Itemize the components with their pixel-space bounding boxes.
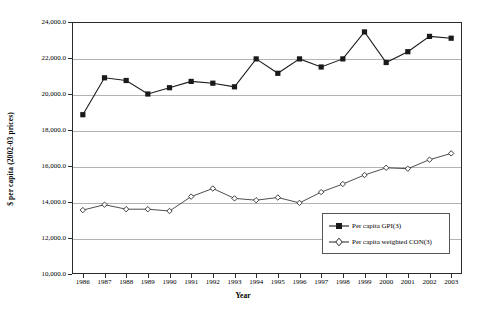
- x-tick-mark: [170, 274, 171, 278]
- x-tick-mark: [300, 274, 301, 278]
- x-tick-mark: [278, 274, 279, 278]
- x-tick-mark: [343, 274, 344, 278]
- x-tick-mark: [83, 274, 84, 278]
- y-tick-mark: [68, 238, 72, 239]
- legend-item-gpi: Per capita GPI(3): [328, 218, 445, 234]
- y-tick-mark: [68, 202, 72, 203]
- legend-label-gpi: Per capita GPI(3): [352, 222, 401, 230]
- x-tick-mark: [430, 274, 431, 278]
- y-tick-label: 14,000.0: [10, 199, 66, 206]
- y-tick-label: 20,000.0: [10, 91, 66, 98]
- y-tick-label: 16,000.0: [10, 163, 66, 170]
- y-tick-label: 10,000.0: [10, 271, 66, 278]
- open-diamond-marker-icon: [328, 236, 350, 248]
- x-tick-mark: [386, 274, 387, 278]
- x-axis-title: Year: [0, 291, 486, 300]
- x-tick-mark: [191, 274, 192, 278]
- x-tick-mark: [105, 274, 106, 278]
- x-tick-mark: [365, 274, 366, 278]
- y-tick-mark: [68, 130, 72, 131]
- x-tick-mark: [408, 274, 409, 278]
- x-tick-mark: [451, 274, 452, 278]
- y-tick-mark: [68, 94, 72, 95]
- x-tick-mark: [213, 274, 214, 278]
- y-tick-mark: [68, 58, 72, 59]
- x-tick-mark: [321, 274, 322, 278]
- x-tick-mark: [235, 274, 236, 278]
- y-tick-label: 18,000.0: [10, 127, 66, 134]
- chart-legend: Per capita GPI(3) Per capita weighted CO…: [322, 213, 450, 254]
- y-tick-mark: [68, 274, 72, 275]
- y-tick-label: 22,000.0: [10, 55, 66, 62]
- x-tick-mark: [126, 274, 127, 278]
- line-chart: $ per capita (2002-03 prices) 10,000.012…: [0, 0, 486, 318]
- gridline: [73, 131, 461, 132]
- gridline: [73, 203, 461, 204]
- x-tick-mark: [148, 274, 149, 278]
- x-tick-label: 2003: [436, 279, 466, 286]
- y-tick-label: 24,000.0: [10, 19, 66, 26]
- y-tick-mark: [68, 166, 72, 167]
- x-tick-mark: [256, 274, 257, 278]
- legend-label-con: Per capita weighted CON(3): [352, 238, 432, 246]
- y-tick-mark: [68, 22, 72, 23]
- filled-square-marker-icon: [328, 220, 350, 232]
- y-tick-label: 12,000.0: [10, 235, 66, 242]
- gridline: [73, 59, 461, 60]
- gridline: [73, 167, 461, 168]
- legend-item-con: Per capita weighted CON(3): [328, 234, 445, 250]
- gridline: [73, 95, 461, 96]
